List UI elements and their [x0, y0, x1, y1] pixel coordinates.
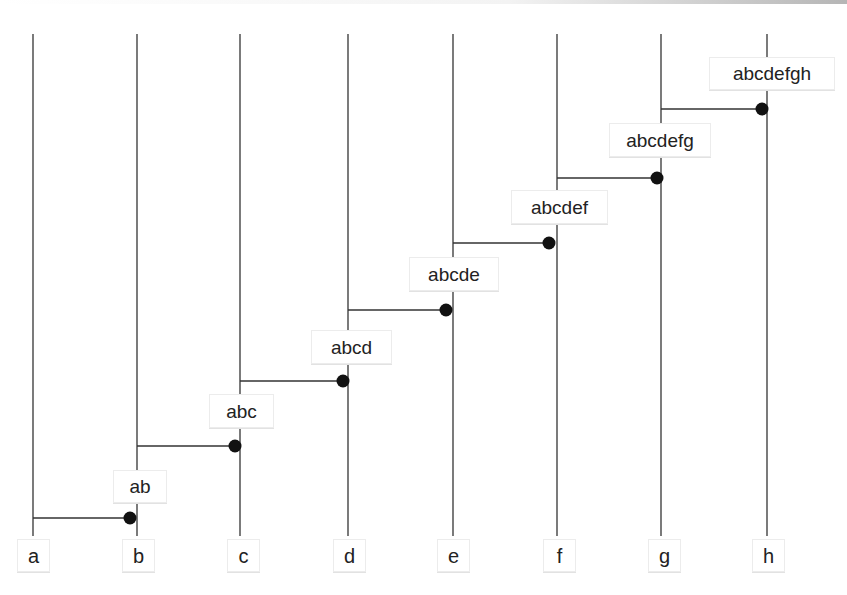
merge-dot-abcde — [440, 304, 453, 317]
line-label-e: e — [437, 539, 470, 572]
line-label-a: a — [17, 539, 50, 572]
merge-dot-ab — [124, 512, 137, 525]
line-label-c: c — [227, 539, 260, 572]
line-label-b: b — [122, 539, 155, 572]
merge-label-ab: ab — [113, 470, 167, 503]
line-label-h: h — [752, 539, 785, 572]
merge-label-abcdefg: abcdefg — [609, 123, 711, 157]
merge-label-abcdefgh: abcdefgh — [709, 57, 835, 90]
line-label-g: g — [648, 539, 681, 572]
merge-label-abcd: abcd — [311, 330, 392, 364]
merge-label-abcde: abcde — [409, 257, 499, 291]
merge-label-abc: abc — [209, 394, 274, 428]
merge-label-abcdef: abcdef — [511, 190, 608, 224]
merge-dot-abcdefgh — [756, 103, 769, 116]
merge-dot-abcdefg — [651, 172, 664, 185]
merge-dot-abcd — [337, 375, 350, 388]
line-label-d: d — [333, 539, 366, 572]
line-label-f: f — [543, 539, 576, 572]
merge-dot-abc — [229, 440, 242, 453]
merge-dot-abcdef — [543, 237, 556, 250]
